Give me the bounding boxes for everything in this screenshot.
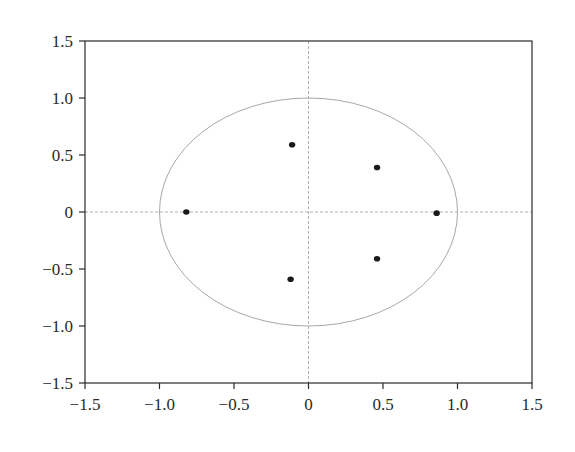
y-tick-label: 0.5: [52, 146, 73, 165]
data-point: [374, 256, 380, 262]
x-tick-label: −0.5: [219, 395, 250, 414]
y-tick-label: −1.5: [42, 374, 73, 393]
scatter-chart: −1.5−1.0−0.500.51.01.5 1.51.00.50−0.5−1.…: [0, 0, 575, 452]
data-point: [183, 209, 189, 215]
data-point: [374, 165, 380, 171]
y-tick-label: 1.0: [52, 89, 73, 108]
data-point: [433, 210, 439, 216]
x-tick-label: 1.5: [521, 395, 542, 414]
reference-lines: [85, 41, 532, 383]
x-tick-label: 1.0: [447, 395, 468, 414]
x-tick-label: 0: [304, 395, 313, 414]
y-tick-label: 1.5: [52, 32, 73, 51]
y-tick-label: 0: [65, 203, 74, 222]
y-tick-label: −1.0: [42, 317, 73, 336]
y-tick-label: −0.5: [42, 260, 73, 279]
x-tick-label: −1.0: [144, 395, 175, 414]
data-point: [287, 276, 293, 282]
x-axis-ticks: −1.5−1.0−0.500.51.01.5: [70, 383, 543, 414]
y-axis-ticks: 1.51.00.50−0.5−1.0−1.5: [42, 32, 85, 393]
data-point: [289, 142, 295, 148]
x-tick-label: −1.5: [70, 395, 101, 414]
x-tick-label: 0.5: [372, 395, 393, 414]
